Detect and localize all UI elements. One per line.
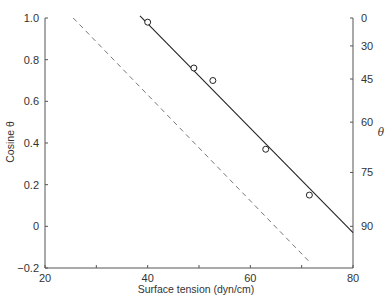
y-axis-title: Cosine θ [4, 121, 16, 163]
data-point [263, 146, 269, 152]
y2-tick-label: 75 [361, 166, 373, 178]
lines [73, 16, 353, 262]
data-point [145, 19, 151, 25]
ticks: 20406080−0.200.20.40.60.81.003045607590 [17, 12, 373, 284]
x-tick-label: 80 [347, 272, 359, 284]
y-tick-label: 0 [33, 220, 39, 232]
y-tick-label: 0.2 [24, 179, 39, 191]
y-tick-label: 0.6 [24, 95, 39, 107]
reference-dashed-line [73, 18, 309, 262]
y2-tick-label: 30 [361, 40, 373, 52]
chart: 20406080−0.200.20.40.60.81.003045607590 … [0, 0, 391, 307]
y2-tick-label: 0 [361, 12, 367, 24]
y-tick-label: −0.2 [17, 262, 39, 274]
axes [45, 18, 353, 268]
y2-tick-label: 60 [361, 116, 373, 128]
data-point [210, 78, 216, 84]
y2-axis-title: θ [378, 126, 385, 138]
x-tick-label: 20 [39, 272, 51, 284]
y-tick-label: 0.4 [24, 137, 39, 149]
y-tick-label: 1.0 [24, 12, 39, 24]
y-tick-label: 0.8 [24, 54, 39, 66]
y2-tick-label: 45 [361, 73, 373, 85]
x-axis-title: Surface tension (dyn/cm) [138, 283, 255, 295]
fit-line [140, 16, 353, 233]
y2-tick-label: 90 [361, 220, 373, 232]
data-point [191, 65, 197, 71]
data-point [306, 192, 312, 198]
